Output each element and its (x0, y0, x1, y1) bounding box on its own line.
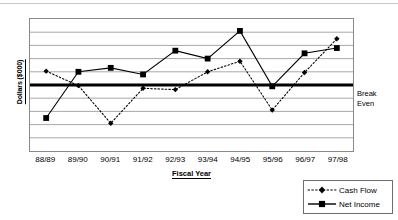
plot-area (29, 18, 354, 152)
series-line-net-income (46, 31, 337, 118)
x-axis-tick-labels: 88/8989/9090/9191/9292/9393/9494/9595/96… (29, 154, 354, 168)
legend-key-net-income-icon (307, 198, 337, 210)
legend-key-cash-flow-icon (307, 184, 337, 196)
x-tick-label: 94/95 (230, 154, 250, 165)
data-point-net-income (237, 28, 243, 34)
break-even-annotation: Break Even (357, 89, 377, 108)
data-point-net-income (108, 65, 114, 71)
legend-label-net-income: Net Income (337, 200, 380, 209)
x-tick-label: 89/90 (68, 154, 88, 165)
x-tick-label: 93/94 (198, 154, 218, 165)
x-tick-label: 97/98 (328, 154, 348, 165)
data-point-cash-flow (43, 68, 48, 73)
x-axis-title-text: Fiscal Year (172, 169, 211, 179)
plot-svg (30, 19, 353, 151)
x-axis-title: Fiscal Year (29, 169, 354, 178)
data-point-net-income (76, 69, 82, 75)
legend-item-net-income: Net Income (304, 197, 392, 211)
data-point-net-income (334, 45, 340, 51)
chart-figure: Dollars ($000) 88/8989/9090/9191/9292/93… (0, 0, 398, 220)
chart-legend: Cash Flow Net Income (303, 180, 393, 214)
data-point-cash-flow (205, 69, 210, 74)
break-even-line-1: Break (357, 89, 377, 99)
data-point-cash-flow (173, 87, 178, 92)
data-point-net-income (140, 72, 146, 78)
data-point-cash-flow (334, 36, 339, 41)
x-tick-label: 91/92 (133, 154, 153, 165)
x-tick-label: 96/97 (295, 154, 315, 165)
page-top-rule (0, 3, 398, 4)
y-axis-title-text: Dollars ($000) (16, 60, 26, 105)
legend-label-cash-flow: Cash Flow (337, 186, 377, 195)
x-tick-label: 92/93 (165, 154, 185, 165)
x-tick-label: 90/91 (100, 154, 120, 165)
legend-item-cash-flow: Cash Flow (304, 183, 392, 197)
x-tick-label: 88/89 (35, 154, 55, 165)
x-tick-label: 95/96 (263, 154, 283, 165)
data-point-net-income (302, 50, 308, 56)
data-point-net-income (43, 115, 49, 121)
data-point-net-income (205, 56, 211, 62)
series-line-cash-flow (46, 39, 337, 123)
y-axis-title: Dollars ($000) (14, 46, 28, 118)
data-point-net-income (172, 48, 178, 54)
break-even-line-2: Even (357, 99, 377, 109)
